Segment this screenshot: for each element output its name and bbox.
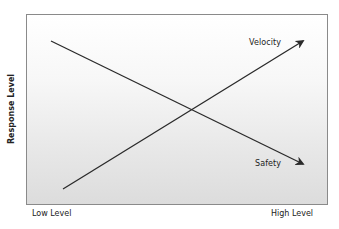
velocity-label: Velocity <box>249 38 281 47</box>
x-axis-low-label: Low Level <box>32 209 71 218</box>
y-axis-label: Response Level <box>7 74 16 144</box>
x-axis-high-label: High Level <box>271 209 313 218</box>
safety-line <box>51 41 303 164</box>
trend-lines <box>0 0 339 229</box>
safety-label: Safety <box>255 159 281 168</box>
